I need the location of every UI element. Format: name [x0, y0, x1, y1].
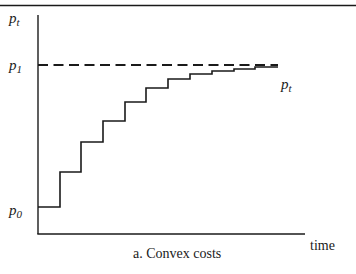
- convex-costs-figure: pt p1 p0 pt time a. Convex costs: [0, 0, 356, 274]
- y-axis-top-label: pt: [8, 10, 21, 28]
- x-axis-label: time: [310, 238, 335, 253]
- curve-end-label: pt: [280, 76, 293, 94]
- p0-label: p0: [8, 202, 23, 220]
- figure-caption: a. Convex costs: [133, 246, 221, 261]
- axes: [37, 15, 305, 234]
- step-price-curve: [38, 67, 278, 207]
- p1-label: p1: [8, 57, 22, 75]
